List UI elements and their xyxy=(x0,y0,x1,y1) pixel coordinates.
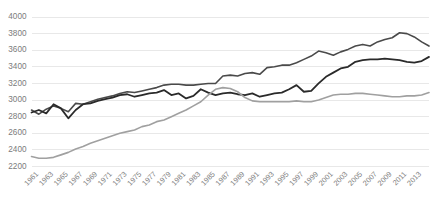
x-axis-tick-label: 1999 xyxy=(302,170,320,188)
y-axis-tick-labels: 2200240026002800300032003400360038004000 xyxy=(8,12,27,171)
series-middle xyxy=(32,57,430,118)
x-axis-tick-label: 1967 xyxy=(66,170,84,188)
x-axis-tick-label: 1987 xyxy=(214,170,232,188)
x-axis-tick-label: 2009 xyxy=(376,170,394,188)
x-axis-tick-label: 2001 xyxy=(317,170,335,188)
x-axis-tick-label: 1969 xyxy=(81,170,99,188)
y-axis-tick-label: 2600 xyxy=(8,128,27,137)
x-axis-tick-label: 1963 xyxy=(37,170,55,188)
x-axis-tick-label: 1979 xyxy=(155,170,173,188)
y-axis-tick-label: 2200 xyxy=(8,162,27,171)
x-axis-tick-label: 2013 xyxy=(405,170,423,188)
x-axis-tick-label: 1995 xyxy=(273,170,291,188)
chart-canvas: 2200240026002800300032003400360038004000… xyxy=(0,0,442,216)
x-axis-tick-label: 1981 xyxy=(169,170,187,188)
y-axis-tick-label: 4000 xyxy=(8,12,27,21)
line-chart: 2200240026002800300032003400360038004000… xyxy=(0,0,442,216)
x-axis-tick-label: 1977 xyxy=(140,170,158,188)
x-axis-tick-label: 1971 xyxy=(96,170,114,188)
x-axis-tick-label: 2007 xyxy=(361,170,379,188)
x-axis-tick-labels: 1961196319651967196919711973197519771979… xyxy=(22,170,423,188)
y-axis-tick-label: 2400 xyxy=(8,145,27,154)
x-axis-tick-label: 1989 xyxy=(228,170,246,188)
y-axis-tick-label: 3800 xyxy=(8,29,27,38)
series-upper xyxy=(32,33,430,114)
x-axis-tick-label: 1961 xyxy=(22,170,40,188)
x-axis-tick-label: 2003 xyxy=(331,170,349,188)
series-lower xyxy=(32,88,430,159)
y-axis-tick-label: 3000 xyxy=(8,95,27,104)
x-axis-tick-label: 2011 xyxy=(391,170,409,188)
x-axis-tick-label: 2005 xyxy=(346,170,364,188)
x-axis-tick-label: 1975 xyxy=(125,170,143,188)
y-axis-tick-label: 2800 xyxy=(8,112,27,121)
y-axis-tick-label: 3600 xyxy=(8,45,27,54)
y-axis-tick-label: 3400 xyxy=(8,62,27,71)
y-axis-tick-label: 3200 xyxy=(8,79,27,88)
x-axis-tick-label: 1985 xyxy=(199,170,217,188)
x-axis-tick-label: 1965 xyxy=(52,170,70,188)
x-axis-tick-label: 1983 xyxy=(184,170,202,188)
x-axis-tick-label: 1991 xyxy=(243,170,261,188)
x-axis-tick-label: 1993 xyxy=(258,170,276,188)
x-axis-tick-label: 1997 xyxy=(287,170,305,188)
data-series-group xyxy=(32,33,430,158)
x-axis-tick-label: 1973 xyxy=(111,170,129,188)
